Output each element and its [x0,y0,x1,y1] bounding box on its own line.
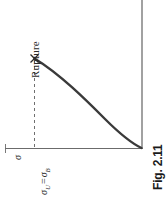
sigma-u-subscript: U [44,185,52,190]
sigma-b-subscript: B [44,168,52,172]
sigma-b-symbol: σ [38,172,49,177]
figure-container: Rupture σ σU=σB Fig. 2.11 [0,0,166,197]
figure-caption: Fig. 2.11 [152,144,164,190]
figure-plot [0,0,166,197]
sigma-u-symbol: σ [38,190,49,195]
rupture-label: Rupture [30,41,41,78]
ultimate-breaking-stress-label: σU=σB [39,168,52,195]
equals-sign: = [38,177,49,185]
stress-axis-label: σ [13,155,23,160]
